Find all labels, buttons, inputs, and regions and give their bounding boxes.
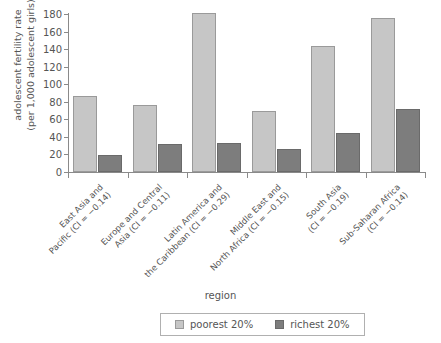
bar-poorest — [311, 46, 335, 172]
legend-item-poorest: poorest 20% — [175, 319, 253, 330]
x-axis-tick-mark — [187, 173, 188, 178]
legend-label-richest: richest 20% — [290, 319, 349, 330]
plot-area — [68, 14, 425, 172]
x-axis-tick-mark — [247, 173, 248, 178]
bar-poorest — [133, 105, 157, 172]
bar-richest — [396, 109, 420, 172]
bar-poorest — [371, 18, 395, 172]
x-axis-tick-mark — [366, 173, 367, 178]
legend-label-poorest: poorest 20% — [190, 319, 253, 330]
legend-item-richest: richest 20% — [275, 319, 349, 330]
y-axis-tick-label: 100 — [36, 79, 62, 90]
y-axis-tick-label: 140 — [36, 44, 62, 55]
bar-poorest — [252, 111, 276, 172]
y-axis-tick-label: 0 — [36, 167, 62, 178]
bar-richest — [158, 144, 182, 172]
chart-legend: poorest 20% richest 20% — [160, 313, 365, 336]
legend-swatch-richest-icon — [275, 320, 284, 329]
x-axis-title: region — [0, 290, 441, 301]
y-axis-tick-label: 120 — [36, 61, 62, 72]
y-axis-title: adolescent fertility rate (per 1,000 ado… — [11, 0, 37, 155]
x-axis-tick-mark — [68, 173, 69, 178]
y-axis-tick-label: 180 — [36, 9, 62, 20]
bar-richest — [98, 155, 122, 172]
bar-poorest — [192, 13, 216, 172]
bar-richest — [217, 143, 241, 172]
x-axis-tick-mark — [128, 173, 129, 178]
y-axis-tick-label: 20 — [36, 149, 62, 160]
y-axis-tick-label: 60 — [36, 114, 62, 125]
chart-figure: adolescent fertility rate (per 1,000 ado… — [0, 0, 441, 343]
bar-richest — [277, 149, 301, 172]
y-axis-tick-label: 80 — [36, 96, 62, 107]
bar-richest — [336, 133, 360, 172]
legend-swatch-poorest-icon — [175, 320, 184, 329]
x-axis-tick-mark — [306, 173, 307, 178]
bar-poorest — [73, 96, 97, 172]
y-axis-tick-label: 160 — [36, 26, 62, 37]
x-axis-tick-mark — [425, 173, 426, 178]
y-axis-tick-label: 40 — [36, 131, 62, 142]
